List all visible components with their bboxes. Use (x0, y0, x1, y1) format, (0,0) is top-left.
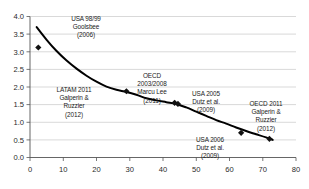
annotation-line: (2012) (237, 125, 295, 133)
y-tick-label-1-5: 1.5 (13, 100, 24, 109)
annotation-line: Ruzzier (41, 102, 107, 110)
annotation-line: Ruzzier (237, 116, 295, 124)
annotation-usa-2005: USA 2005 Dutz et al. (2009) (180, 90, 232, 115)
annotation-latam-2011: LATAM 2011 Galperin & Ruzzier (2012) (41, 86, 107, 119)
y-tick-label-4-0: 4.0 (13, 12, 24, 21)
annotation-line: Galperin & (41, 94, 107, 102)
y-tick-label-0-5: 0.5 (13, 136, 24, 145)
annotation-line: USA 98/99 (55, 15, 117, 23)
x-tick-label-50: 50 (192, 165, 200, 174)
annotation-line: USA 2005 (180, 90, 232, 98)
x-tick-label-20: 20 (92, 165, 100, 174)
y-tick-label-3-0: 3.0 (13, 48, 24, 57)
data-point-marker (266, 136, 272, 142)
x-tick-label-10: 10 (59, 165, 67, 174)
annotation-line: (2009) (183, 152, 237, 160)
x-tick-label-80: 80 (292, 165, 300, 174)
x-tick-label-40: 40 (159, 165, 167, 174)
x-tick-label-60: 60 (225, 165, 233, 174)
annotation-line: (2012) (41, 111, 107, 119)
annotation-line: USA 2006 (183, 136, 237, 144)
annotation-line: OECD 2011 (237, 100, 295, 108)
x-axis: 0 10 20 30 40 50 60 70 80 (28, 158, 300, 175)
annotation-usa-2006: USA 2006 Dutz et al. (2009) (183, 136, 237, 161)
annotation-oecd-2011: OECD 2011 Galperin & Ruzzier (2012) (237, 100, 295, 133)
annotation-line: 2003/2008 (125, 80, 179, 88)
chart-container: 4.0 3.5 3.0 2.5 2.0 1.5 1.0 0.5 0.0 0 10… (0, 0, 309, 189)
y-axis: 4.0 3.5 3.0 2.5 2.0 1.5 1.0 0.5 0.0 (13, 12, 30, 162)
annotation-line: Dutz et al. (180, 98, 232, 106)
annotation-line: (2011) (125, 97, 179, 105)
y-tick-label-3-5: 3.5 (13, 30, 24, 39)
annotation-line: Galperin & (237, 108, 295, 116)
x-tick-label-0: 0 (28, 165, 32, 174)
y-tick-label-2-0: 2.0 (13, 83, 24, 92)
annotation-line: OECD (125, 72, 179, 80)
annotation-line: LATAM 2011 (41, 86, 107, 94)
annotation-line: Dutz et al. (183, 144, 237, 152)
annotation-line: Marcu Lee (125, 88, 179, 96)
x-tick-label-30: 30 (126, 165, 134, 174)
y-tick-label-1-0: 1.0 (13, 118, 24, 127)
data-point-marker (35, 44, 41, 50)
annotation-line: (2009) (180, 106, 232, 114)
annotation-line: Goolsbee (55, 23, 117, 31)
annotation-oecd-2003-2008: OECD 2003/2008 Marcu Lee (2011) (125, 72, 179, 105)
annotation-line: (2006) (55, 31, 117, 39)
y-tick-label-2-5: 2.5 (13, 65, 24, 74)
x-tick-label-70: 70 (259, 165, 267, 174)
annotation-usa-9899: USA 98/99 Goolsbee (2006) (55, 15, 117, 40)
y-tick-label-0-0: 0.0 (13, 153, 24, 162)
